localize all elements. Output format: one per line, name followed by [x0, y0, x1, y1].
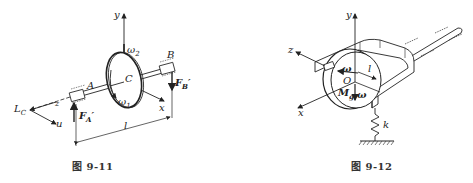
x-axis-label: x: [159, 103, 165, 113]
omega-lower-label: ω: [357, 90, 367, 100]
point-a-label: A: [87, 81, 94, 91]
figure-caption: 图 9-12: [351, 158, 393, 173]
y-axis-label: y: [114, 10, 120, 20]
point-lc-label: LC: [14, 104, 26, 117]
omega2-symbol: ω: [127, 44, 135, 55]
force-a-prime: ′: [92, 110, 95, 121]
figure-9-11-drawing: [0, 0, 240, 183]
moment-label: Mg: [338, 88, 354, 100]
figure-9-12: y z ω l O Mg ω x k 图 9-12: [240, 0, 473, 183]
point-lc-subscript: C: [21, 109, 26, 117]
force-b-prime: ′: [188, 77, 191, 88]
length-label: l: [368, 64, 371, 74]
omega1-label: ω1: [118, 97, 131, 110]
bearing-hatch: [405, 38, 418, 44]
bearing-hatch: [435, 27, 448, 33]
y-axis-label: y: [346, 10, 352, 20]
omega-upper-label: ω: [342, 64, 352, 74]
figure-9-11: y ω2 B C A FB′ ω1 x z LC FA′ u l 图 9-11: [0, 0, 240, 183]
z-axis-label: z: [288, 45, 293, 55]
u-axis-label: u: [56, 119, 62, 129]
z-axis-label: z: [55, 100, 59, 108]
point-o-label: O: [343, 76, 351, 86]
x-axis-label: x: [298, 108, 304, 118]
force-a-label: FA′: [79, 111, 94, 123]
omega2-subscript: 2: [135, 50, 139, 58]
omega1-subscript: 1: [126, 102, 130, 110]
u-axis-arrow: [30, 110, 56, 124]
spring-label: k: [383, 120, 389, 130]
omega1-symbol: ω: [118, 96, 126, 107]
figure-caption: 图 9-11: [72, 158, 114, 173]
spring: [371, 114, 379, 136]
length-label: l: [124, 121, 127, 131]
point-b-label: B: [167, 50, 174, 60]
point-c-label: C: [125, 74, 133, 84]
point-lc-symbol: L: [14, 103, 21, 114]
moment-symbol: M: [338, 87, 349, 98]
omega2-label: ω2: [127, 45, 140, 58]
z-axis-arrow: [30, 102, 56, 110]
force-b-label: FB′: [175, 78, 191, 90]
moment-subscript: g: [349, 92, 354, 101]
